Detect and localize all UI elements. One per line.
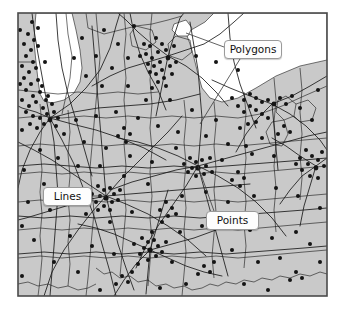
callout-lines-label: Lines [54, 191, 81, 202]
callout-polygons-label: Polygons [230, 44, 277, 55]
callout-polygons[interactable]: Polygons [224, 40, 282, 59]
callout-points-label: Points [217, 215, 249, 226]
map-canvas [0, 0, 345, 313]
callout-points[interactable]: Points [206, 211, 259, 230]
callout-lines[interactable]: Lines [43, 187, 92, 206]
gis-vector-map-figure: Polygons Lines Points [0, 0, 345, 313]
